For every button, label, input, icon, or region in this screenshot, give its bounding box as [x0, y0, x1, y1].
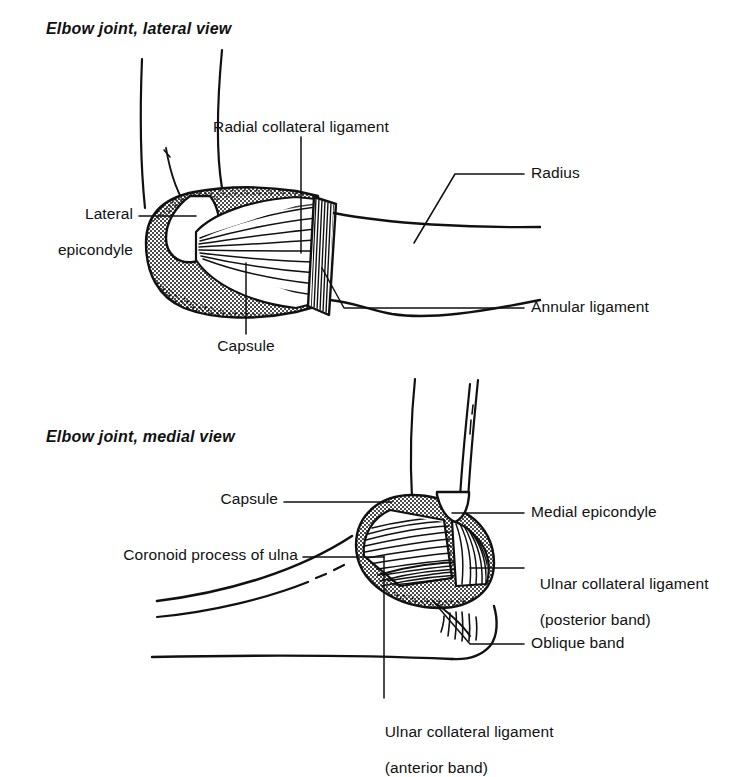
- panel-title-medial: Elbow joint, medial view: [46, 428, 235, 446]
- label-radius: Radius: [531, 164, 580, 182]
- panel-title-lateral: Elbow joint, lateral view: [46, 20, 231, 38]
- label-medial-epicondyle: Medial epicondyle: [531, 503, 657, 521]
- label-ulnar-collateral-posterior-line1: Ulnar collateral ligament: [540, 575, 709, 592]
- radius-shape: [330, 213, 540, 316]
- label-capsule-lateral: Capsule: [196, 337, 296, 355]
- label-ulnar-collateral-anterior-line1: Ulnar collateral ligament: [385, 723, 554, 740]
- annular-ligament-shape: [308, 197, 336, 315]
- label-oblique-band: Oblique band: [531, 634, 624, 652]
- label-lateral-epicondyle-line2: epicondyle: [58, 241, 133, 258]
- label-ulnar-collateral-posterior-line2: (posterior band): [540, 611, 651, 628]
- label-lateral-epicondyle-line1: Lateral: [85, 205, 133, 222]
- label-ulnar-collateral-ligament-posterior: Ulnar collateral ligament (posterior ban…: [531, 557, 709, 629]
- humerus-shaft-medial: [411, 379, 478, 500]
- label-ulnar-collateral-ligament-anterior: Ulnar collateral ligament (anterior band…: [376, 705, 554, 777]
- label-coronoid-process-of-ulna: Coronoid process of ulna: [60, 546, 298, 564]
- label-annular-ligament: Annular ligament: [531, 298, 649, 316]
- label-lateral-epicondyle: Lateral epicondyle: [0, 187, 133, 259]
- label-radial-collateral-ligament: Radial collateral ligament: [188, 118, 414, 136]
- label-ulnar-collateral-anterior-line2: (anterior band): [385, 759, 488, 776]
- label-capsule-medial: Capsule: [140, 490, 278, 508]
